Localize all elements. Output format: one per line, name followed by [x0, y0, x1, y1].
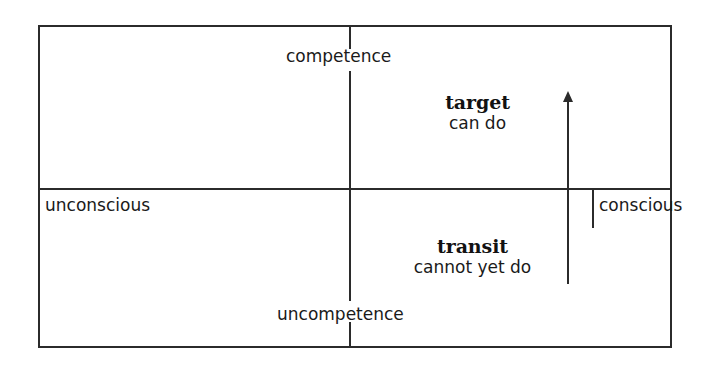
vertical-axis-line-segment — [349, 71, 351, 189]
annotation-target-title: target — [400, 92, 555, 113]
annotation-transit-subtitle: cannot yet do — [390, 258, 555, 277]
axis-label-uncompetence: uncompetence — [277, 305, 404, 324]
annotation-transit: transit cannot yet do — [390, 236, 555, 277]
matrix-frame — [38, 25, 672, 348]
axis-label-unconscious: unconscious — [45, 196, 150, 215]
vertical-axis-line-segment — [349, 322, 351, 347]
diagram-canvas: competence uncompetence unconscious cons… — [0, 0, 706, 371]
arrow-shaft — [567, 100, 569, 284]
horizontal-axis-line — [38, 188, 672, 190]
vertical-axis-line-segment — [349, 190, 351, 301]
annotation-target-subtitle: can do — [400, 114, 555, 133]
annotation-target: target can do — [400, 92, 555, 133]
annotation-transit-title: transit — [390, 236, 555, 257]
axis-label-conscious: conscious — [599, 196, 682, 215]
conscious-divider-tick — [592, 190, 594, 228]
axis-label-competence: competence — [286, 47, 391, 66]
